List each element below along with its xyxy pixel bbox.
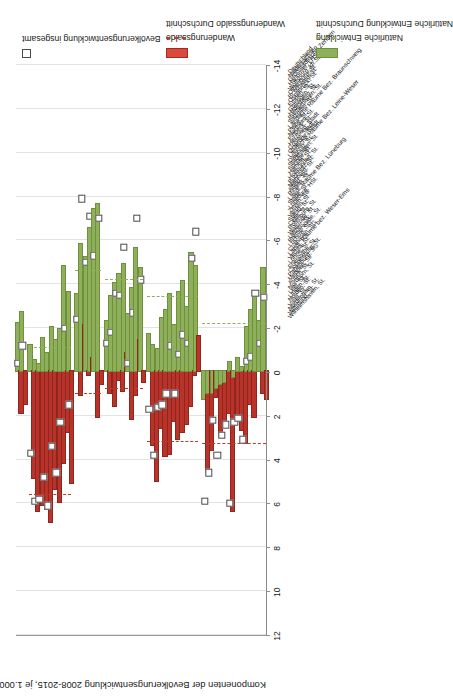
axis-tick-label: -14 (272, 60, 282, 72)
axis-tick-label: -12 (272, 104, 282, 116)
legend-label: Bevölkerungsentwicklung insgesamt (22, 33, 161, 44)
marker-bevoelkerungsentwicklung-insgesamt (163, 390, 170, 397)
marker-bevoelkerungsentwicklung-insgesamt (252, 289, 259, 296)
bar-wanderungssaldo (69, 370, 74, 484)
axis-tick-label: -8 (272, 194, 282, 202)
category-axis-labels: DeutschlandNiedersachsenGroßstädtische Z… (286, 66, 406, 636)
axis-tick-label: 10 (272, 587, 282, 596)
avg-line-natuerliche-entwicklung (29, 347, 71, 348)
bar-natuerliche-entwicklung (95, 203, 100, 372)
axis-tick-label: 4 (272, 458, 282, 463)
axis-tick (266, 416, 270, 417)
gridline (16, 108, 266, 109)
legend-item[interactable]: Wanderungssaldo Durchschnitt (166, 18, 285, 42)
legend-item[interactable]: Bevölkerungsentwicklung insgesamt (22, 33, 161, 58)
marker-bevoelkerungsentwicklung-insgesamt (201, 498, 208, 505)
avg-line-wanderungssaldo (29, 494, 71, 495)
axis-tick (266, 503, 270, 504)
marker-bevoelkerungsentwicklung-insgesamt (205, 469, 212, 476)
marker-bevoelkerungsentwicklung-insgesamt (53, 469, 60, 476)
bar-natuerliche-entwicklung (66, 291, 71, 372)
marker-bevoelkerungsentwicklung-insgesamt (150, 452, 157, 459)
axis-tick (266, 635, 270, 636)
axis-tick (266, 460, 270, 461)
marker-bevoelkerungsentwicklung-insgesamt (146, 406, 153, 413)
axis-tick (266, 372, 270, 373)
axis-tick-label: -4 (272, 281, 282, 289)
bar-wanderungssaldo (99, 370, 104, 385)
gridline (16, 634, 266, 635)
avg-line-natuerliche-entwicklung (202, 323, 266, 324)
axis-tick (266, 240, 270, 241)
axis-tick-label: -6 (272, 238, 282, 246)
marker-bevoelkerungsentwicklung-insgesamt (120, 243, 127, 250)
marker-bevoelkerungsentwicklung-insgesamt (36, 495, 43, 502)
marker-bevoelkerungsentwicklung-insgesamt (44, 502, 51, 509)
axis-tick (266, 547, 270, 548)
gridline (16, 196, 266, 197)
avg-line-wanderungssaldo (105, 388, 143, 389)
marker-bevoelkerungsentwicklung-insgesamt (65, 401, 72, 408)
marker-bevoelkerungsentwicklung-insgesamt (226, 500, 233, 507)
avg-line-natuerliche-entwicklung (75, 270, 100, 271)
marker-bevoelkerungsentwicklung-insgesamt (218, 432, 225, 439)
dashed-line-icon (316, 34, 336, 42)
legend-item[interactable]: Natürliche Entwicklung Durchschnitt (316, 18, 453, 42)
axis-tick (266, 197, 270, 198)
gridline (16, 590, 266, 591)
marker-bevoelkerungsentwicklung-insgesamt (158, 401, 165, 408)
chart-axis-title: Komponenten der Bevölkerungsentwicklung … (16, 674, 266, 690)
marker-bevoelkerungsentwicklung-insgesamt (235, 414, 242, 421)
bar-swatch-icon (316, 48, 338, 58)
bar-wanderungssaldo (196, 335, 201, 372)
legend-label: Wanderungssaldo Durchschnitt (166, 18, 285, 29)
gridline (16, 152, 266, 153)
marker-bevoelkerungsentwicklung-insgesamt (192, 228, 199, 235)
axis-tick-label: 2 (272, 414, 282, 419)
marker-bevoelkerungsentwicklung-insgesamt (137, 276, 144, 283)
marker-bevoelkerungsentwicklung-insgesamt (48, 443, 55, 450)
axis-tick (266, 153, 270, 154)
axis-tick-label: 8 (272, 546, 282, 551)
bar-wanderungssaldo (23, 370, 28, 405)
marker-bevoelkerungsentwicklung-insgesamt (133, 215, 140, 222)
bar-swatch-icon (166, 48, 188, 58)
gridline (16, 64, 266, 65)
axis-tick (266, 109, 270, 110)
avg-line-wanderungssaldo (202, 443, 266, 444)
avg-line-wanderungssaldo (147, 441, 198, 442)
marker-bevoelkerungsentwicklung-insgesamt (40, 473, 47, 480)
axis-tick-label: 12 (272, 631, 282, 640)
marker-bevoelkerungsentwicklung-insgesamt (95, 215, 102, 222)
marker-bevoelkerungsentwicklung-insgesamt (78, 195, 85, 202)
axis-tick-label: -2 (272, 325, 282, 333)
bar-wanderungssaldo (133, 370, 138, 396)
marker-bevoelkerungsentwicklung-insgesamt (209, 416, 216, 423)
dashed-line-icon (166, 34, 186, 42)
gridline (16, 546, 266, 547)
gridline (16, 239, 266, 240)
axis-tick-label: -10 (272, 148, 282, 160)
bar-wanderungssaldo (251, 370, 256, 418)
avg-line-natuerliche-entwicklung (105, 279, 143, 280)
axis-tick (266, 284, 270, 285)
avg-line-wanderungssaldo (75, 393, 100, 394)
bar-natuerliche-entwicklung (260, 267, 265, 372)
axis-tick (266, 591, 270, 592)
marker-bevoelkerungsentwicklung-insgesamt (222, 421, 229, 428)
axis-tick-label: 6 (272, 502, 282, 507)
axis-tick (266, 328, 270, 329)
chart-legend: Bevölkerungsentwicklung insgesamtWanderu… (16, 4, 416, 58)
axis-tick-label: 0 (272, 371, 282, 376)
legend-label: Natürliche Entwicklung Durchschnitt (316, 18, 453, 29)
value-axis-line (266, 66, 267, 636)
axis-tick (266, 65, 270, 66)
marker-bevoelkerungsentwicklung-insgesamt (188, 254, 195, 261)
open-square-icon (22, 49, 31, 58)
marker-bevoelkerungsentwicklung-insgesamt (214, 452, 221, 459)
marker-bevoelkerungsentwicklung-insgesamt (57, 419, 64, 426)
marker-bevoelkerungsentwicklung-insgesamt (27, 449, 34, 456)
marker-bevoelkerungsentwicklung-insgesamt (19, 342, 26, 349)
